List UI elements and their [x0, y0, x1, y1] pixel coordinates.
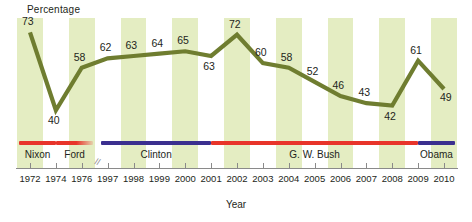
- tick-mark: [56, 163, 57, 168]
- x-axis-title: Year: [0, 199, 472, 210]
- data-label: 73: [22, 15, 34, 27]
- tick-mark: [444, 163, 445, 168]
- tick-mark: [392, 163, 393, 168]
- president-label: Obama: [398, 149, 472, 160]
- tick-mark: [263, 163, 264, 168]
- tick-mark: [418, 163, 419, 168]
- tick-mark: [341, 163, 342, 168]
- data-label: 65: [177, 34, 189, 46]
- data-label: 42: [384, 110, 396, 122]
- data-label: 43: [358, 86, 370, 98]
- tick-mark: [82, 163, 83, 168]
- tick-mark: [134, 163, 135, 168]
- data-label: 64: [151, 37, 163, 49]
- line-series-plot: [0, 0, 472, 222]
- data-label: 58: [74, 51, 86, 63]
- data-label: 40: [48, 114, 60, 126]
- data-label: 49: [440, 91, 452, 103]
- data-label: 62: [100, 41, 112, 53]
- tick-label: 2010: [429, 173, 459, 184]
- tick-mark: [30, 163, 31, 168]
- tick-mark: [211, 163, 212, 168]
- data-label: 58: [281, 51, 293, 63]
- tick-mark: [237, 163, 238, 168]
- president-band-ford: [56, 141, 94, 145]
- data-label: 46: [333, 79, 345, 91]
- tick-mark: [185, 163, 186, 168]
- president-band-nixon: [19, 141, 56, 145]
- data-label: 61: [410, 44, 422, 56]
- tick-mark: [108, 163, 109, 168]
- tick-mark: [159, 163, 160, 168]
- president-band-clinton: [101, 141, 211, 145]
- president-band-obama: [418, 141, 455, 145]
- tick-mark: [366, 163, 367, 168]
- data-label: 63: [126, 39, 138, 51]
- president-band-g-w-bush: [211, 141, 418, 145]
- x-axis-line: [16, 168, 458, 169]
- tick-mark: [289, 163, 290, 168]
- data-label: 72: [229, 18, 241, 30]
- data-label: 63: [203, 60, 215, 72]
- tick-mark: [315, 163, 316, 168]
- chart-container: Percentage 73405862636465637260585246434…: [0, 0, 472, 222]
- series-polyline: [30, 32, 444, 110]
- data-label: 60: [255, 46, 267, 58]
- data-label: 52: [307, 65, 319, 77]
